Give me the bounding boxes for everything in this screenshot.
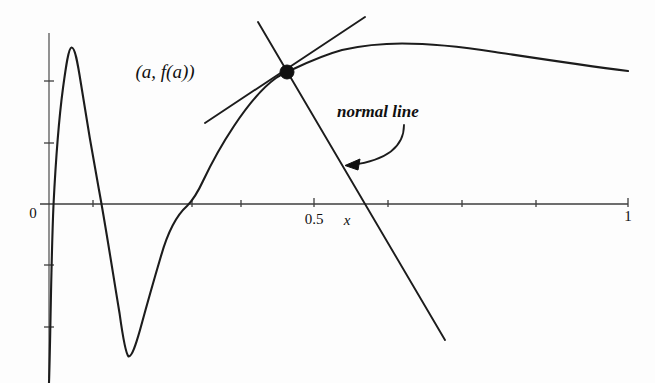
origin-label: 0 [29, 205, 37, 221]
x-tick-label-one: 1 [624, 208, 632, 224]
tangent-point-label: (a, f(a)) [135, 61, 194, 83]
function-plot: 0 0.5 x 1 (a, f(a)) normal line [0, 0, 655, 383]
tangent-point-marker [280, 65, 294, 79]
x-tick-label-half: 0.5 [305, 211, 324, 227]
normal-line-label: normal line [337, 102, 419, 121]
x-axis-ticks [93, 198, 628, 207]
normal-line-callout-arrowhead [345, 159, 360, 170]
function-curve [49, 44, 628, 383]
x-axis-label: x [343, 212, 351, 228]
figure-canvas: 0 0.5 x 1 (a, f(a)) normal line [0, 0, 655, 383]
